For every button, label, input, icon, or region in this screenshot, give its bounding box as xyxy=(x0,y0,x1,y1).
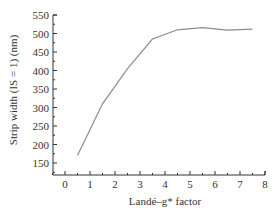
x-tick-label: 5 xyxy=(187,178,193,190)
y-tick-label: 250 xyxy=(33,120,50,132)
x-tick-label: 3 xyxy=(137,178,143,190)
x-axis-title: Landé–g* factor xyxy=(129,195,202,207)
y-tick-label: 150 xyxy=(33,157,50,169)
x-tick-label: 2 xyxy=(112,178,118,190)
data-line xyxy=(78,28,253,156)
x-tick-label: 0 xyxy=(62,178,68,190)
y-axis-title: Strip width (IS = 1) (nm) xyxy=(7,34,20,145)
x-tick-label: 1 xyxy=(87,178,93,190)
tick-labels: 150200250300350400450500550012345678 xyxy=(33,9,269,190)
axes xyxy=(53,15,265,175)
x-tick-label: 8 xyxy=(262,178,268,190)
x-tick-label: 7 xyxy=(237,178,243,190)
y-tick-label: 450 xyxy=(33,46,50,58)
tick-marks xyxy=(53,15,266,175)
x-tick-label: 4 xyxy=(162,178,168,190)
y-tick-label: 550 xyxy=(33,9,50,21)
x-tick-label: 6 xyxy=(212,178,218,190)
y-tick-label: 350 xyxy=(33,83,50,95)
y-tick-label: 300 xyxy=(33,102,50,114)
y-tick-label: 200 xyxy=(33,139,50,151)
line-chart: 150200250300350400450500550012345678 Lan… xyxy=(0,0,279,216)
y-tick-label: 500 xyxy=(33,28,50,40)
y-tick-label: 400 xyxy=(33,65,50,77)
